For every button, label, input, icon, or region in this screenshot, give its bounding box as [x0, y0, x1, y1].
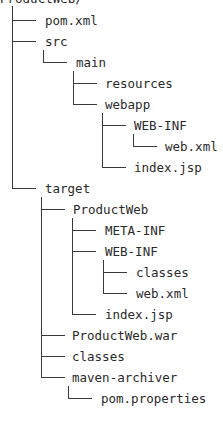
- tree-connector: [12, 20, 36, 21]
- tree-connector: [41, 356, 65, 357]
- tree-connector: [12, 6, 13, 189]
- tree-node-resources: resources: [105, 73, 173, 94]
- tree-connector: [41, 209, 65, 210]
- tree-connector: [133, 146, 157, 147]
- tree-connector: [41, 335, 65, 336]
- tree-connector: [68, 386, 69, 398]
- tree-connector: [103, 293, 127, 294]
- tree-node-web-inf: WEB-INF: [134, 115, 187, 136]
- tree-connector: [43, 62, 67, 63]
- tree-node-maven-archiver: maven-archiver: [72, 367, 177, 388]
- tree-connector: [12, 188, 36, 189]
- tree-node-classes: classes: [136, 262, 189, 283]
- tree-node-meta-inf: META-INF: [105, 220, 165, 241]
- tree-node-webapp: webapp: [105, 94, 150, 115]
- tree-connector: [72, 230, 96, 231]
- tree-connector: [103, 260, 104, 293]
- tree-node-main: main: [76, 52, 106, 73]
- tree-node-productweb: ProductWeb: [73, 199, 148, 220]
- tree-node-web-inf: WEB-INF: [105, 241, 158, 262]
- tree-node-target: target: [45, 178, 90, 199]
- tree-node-index-jsp: index.jsp: [105, 304, 173, 325]
- tree-connector: [12, 41, 36, 42]
- tree-node-productweb-war: ProductWeb.war: [72, 325, 177, 346]
- tree-connector: [72, 314, 96, 315]
- tree-connector: [73, 83, 97, 84]
- tree-connector: [41, 197, 42, 377]
- tree-connector: [103, 272, 127, 273]
- tree-connector: [41, 377, 65, 378]
- tree-node-pom-properties: pom.properties: [101, 388, 206, 409]
- tree-connector: [102, 113, 103, 167]
- tree-connector: [102, 125, 126, 126]
- tree-node-classes: classes: [72, 346, 125, 367]
- tree-node-index-jsp: index.jsp: [134, 157, 202, 178]
- tree-connector: [73, 104, 97, 105]
- tree-node-src: src: [45, 31, 68, 52]
- tree-connector: [68, 398, 92, 399]
- tree-connector: [72, 218, 73, 314]
- tree-connector: [72, 251, 96, 252]
- tree-node-web-xml: web.xml: [136, 283, 189, 304]
- tree-connector: [43, 50, 44, 62]
- tree-connector: [102, 167, 126, 168]
- tree-connector: [73, 71, 74, 104]
- tree-node-pom-xml: pom.xml: [45, 10, 98, 31]
- tree-node-web-xml: web.xml: [165, 136, 218, 157]
